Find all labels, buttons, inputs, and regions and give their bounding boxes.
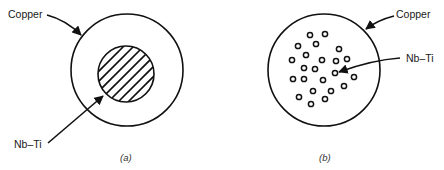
copper-outer-circle-b bbox=[268, 14, 380, 126]
nbti-arrow-b bbox=[339, 58, 400, 72]
nbti-core-hatched bbox=[70, 0, 170, 170]
superconductor-cross-section-diagram: Copper Nb–Ti (a) bbox=[0, 0, 444, 170]
caption-a: (a) bbox=[120, 152, 132, 163]
copper-label-b: Copper bbox=[396, 8, 431, 20]
caption-b: (b) bbox=[319, 152, 331, 163]
copper-label-a: Copper bbox=[8, 8, 43, 20]
nbti-label-a: Nb–Ti bbox=[14, 138, 42, 150]
nbti-label-b: Nb–Ti bbox=[406, 52, 434, 64]
copper-arrow-b bbox=[366, 16, 394, 29]
panel-b: Copper Nb–Ti (b) bbox=[268, 8, 434, 163]
nbti-arrow-a bbox=[48, 96, 103, 143]
panel-a: Copper Nb–Ti (a) bbox=[8, 0, 183, 170]
copper-arrow-a bbox=[47, 15, 81, 35]
